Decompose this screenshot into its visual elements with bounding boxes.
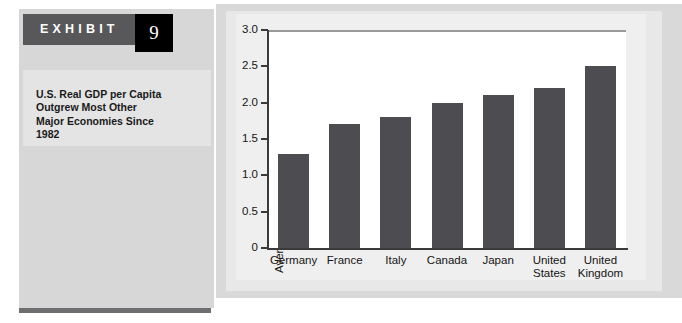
exhibit-caption-text: U.S. Real GDP per Capita Outgrew Most Ot… bbox=[36, 88, 188, 142]
y-tick-label: 1.0 bbox=[228, 168, 258, 180]
x-category-label: United States bbox=[524, 254, 575, 279]
y-tick-label: 2.0 bbox=[228, 96, 258, 108]
y-tick-mark bbox=[261, 211, 268, 213]
bar bbox=[585, 66, 616, 248]
y-tick-mark bbox=[261, 65, 268, 67]
x-category-label: France bbox=[319, 254, 370, 267]
x-axis-line bbox=[267, 248, 628, 250]
y-tick-label: 0 bbox=[228, 241, 258, 253]
y-tick-mark bbox=[261, 138, 268, 140]
x-category-label: United Kingdom bbox=[575, 254, 626, 279]
y-tick-mark bbox=[261, 102, 268, 104]
bar bbox=[534, 88, 565, 248]
y-tick-label: 1.5 bbox=[228, 132, 258, 144]
y-tick-mark bbox=[261, 174, 268, 176]
exhibit-sidebar-panel bbox=[19, 9, 214, 308]
y-tick-label: 2.5 bbox=[228, 59, 258, 71]
exhibit-page: EXHIBIT 9 U.S. Real GDP per Capita Outgr… bbox=[0, 0, 682, 323]
bar bbox=[483, 95, 514, 248]
x-category-label: Italy bbox=[370, 254, 421, 267]
exhibit-label: EXHIBIT bbox=[40, 21, 119, 37]
exhibit-number: 9 bbox=[135, 22, 173, 44]
bar bbox=[278, 154, 309, 248]
bar bbox=[329, 124, 360, 248]
y-tick-mark bbox=[261, 247, 268, 249]
sidebar-bottom-edge bbox=[19, 308, 211, 313]
bar bbox=[380, 117, 411, 248]
y-tick-label: 3.0 bbox=[228, 23, 258, 35]
bar bbox=[432, 103, 463, 248]
y-tick-mark bbox=[261, 29, 268, 31]
x-category-label: Germany bbox=[268, 254, 319, 267]
x-category-label: Canada bbox=[421, 254, 472, 267]
y-tick-label: 0.5 bbox=[228, 205, 258, 217]
x-category-label: Japan bbox=[473, 254, 524, 267]
